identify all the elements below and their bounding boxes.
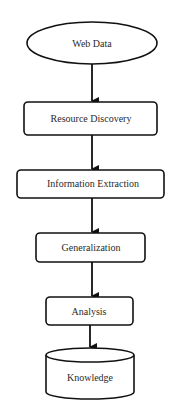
node-resource-discovery: Resource Discovery xyxy=(24,102,157,135)
node-web-data: Web Data xyxy=(27,22,157,64)
node-label: Web Data xyxy=(72,38,112,49)
node-generalization: Generalization xyxy=(36,233,145,262)
node-label: Information Extraction xyxy=(47,178,139,189)
node-label: Analysis xyxy=(72,306,107,317)
node-information-extraction: Information Extraction xyxy=(17,170,164,198)
node-analysis: Analysis xyxy=(46,297,133,325)
node-label: Generalization xyxy=(62,242,121,253)
node-label: Knowledge xyxy=(67,372,114,383)
flowchart-canvas: Web Data Resource Discovery Information … xyxy=(0,0,170,416)
node-knowledge: Knowledge xyxy=(46,348,134,399)
node-label: Resource Discovery xyxy=(51,113,132,124)
